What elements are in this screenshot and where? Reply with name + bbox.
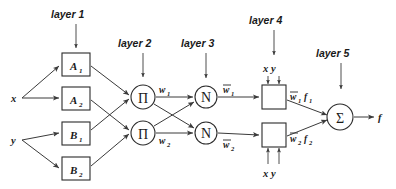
diagram-canvas: A 1 A 2 B 1 B 2 Π <box>0 0 396 189</box>
layer2-node-product-1[interactable]: Π <box>131 85 155 109</box>
layer-pointer-arrows <box>76 24 341 89</box>
normalized-weight-w1-base: w <box>223 85 230 95</box>
edge-cons1-to-sum <box>287 100 327 115</box>
input-y-label: y <box>9 135 16 146</box>
edge-y-to-B2 <box>22 140 59 168</box>
layer1-node-B1-subscript: 1 <box>79 136 83 144</box>
layer3-node-normalize-1[interactable]: N <box>195 86 217 108</box>
layer1-node-B2-subscript: 2 <box>78 171 83 179</box>
layer3-node-normalize-2[interactable]: N <box>195 122 217 144</box>
weight-w1-subscript: 1 <box>167 90 170 97</box>
weighted-output-1-extra-subscript: 1 <box>309 97 312 104</box>
layer-1-label: layer 1 <box>51 8 84 20</box>
layer4-node-consequent-1[interactable] <box>262 85 286 109</box>
layer1-node-B2-label: B <box>69 164 77 176</box>
layer-5-label: layer 5 <box>316 47 349 59</box>
layer3-to-layer4-edges <box>218 97 259 135</box>
weight-w2-base: w <box>159 136 166 146</box>
n-symbol-icon: N <box>201 126 211 141</box>
weighted-output-1-subscript: 1 <box>298 97 301 104</box>
pi-symbol-icon: Π <box>138 91 148 106</box>
layer4-bottom-xy-label: x y <box>262 168 276 179</box>
layer2-node-product-2[interactable]: Π <box>131 121 155 145</box>
weight-w1-base: w <box>159 85 166 95</box>
edge-labels-group: w 1 w 2 w 1 w 2 w <box>159 85 313 152</box>
layer-labels-group: layer 1 layer 2 layer 3 layer 4 layer 5 <box>51 8 349 59</box>
weighted-output-2-subscript: 2 <box>297 139 302 146</box>
pi-symbol-icon: Π <box>138 127 148 142</box>
layer4-nodes-group <box>262 85 286 147</box>
layer4-node-consequent-2[interactable] <box>262 123 286 147</box>
edge-label-normalized-weight-w2: w 2 <box>223 140 235 152</box>
weight-w2-subscript: 2 <box>166 141 171 148</box>
layer1-nodes-group: A 1 A 2 B 1 B 2 <box>62 53 90 180</box>
layer4-to-layer5-edges <box>287 100 327 136</box>
layer1-node-B1-label: B <box>69 129 77 141</box>
layer3-nodes-group: N N <box>195 86 217 144</box>
normalized-weight-w2-subscript: 2 <box>230 145 235 152</box>
weighted-output-1-base: w <box>290 92 297 102</box>
layer4-top-xy-label: x y <box>262 63 276 74</box>
layer1-node-A2[interactable]: A 2 <box>62 87 90 110</box>
layer1-to-layer2-edges <box>91 66 129 166</box>
edge-norm2-to-cons2 <box>218 133 259 135</box>
edge-label-weight-w1: w 1 <box>159 85 170 97</box>
anfis-diagram: A 1 A 2 B 1 B 2 Π <box>0 0 396 189</box>
edge-label-weighted-output-2: w 2 f 2 <box>290 133 313 146</box>
layer1-node-A1-subscript: 1 <box>79 67 83 75</box>
layer2-to-layer3-edges <box>154 97 194 133</box>
edge-A1-to-prod1 <box>91 66 129 95</box>
layer1-node-B1[interactable]: B 1 <box>62 122 90 145</box>
normalized-weight-w1-subscript: 1 <box>231 90 234 97</box>
edge-label-weight-w2: w 2 <box>159 136 171 148</box>
layer1-node-A2-subscript: 2 <box>78 101 83 109</box>
edge-B2-to-prod2 <box>91 134 129 166</box>
weighted-output-2-extra: f <box>304 134 308 144</box>
layer2-nodes-group: Π Π <box>131 85 155 145</box>
edge-x-to-A1 <box>22 66 59 98</box>
layer1-node-A1[interactable]: A 1 <box>62 53 90 76</box>
output-f-label: f <box>378 112 383 123</box>
layer1-node-A1-label: A <box>69 60 77 72</box>
normalized-weight-w2-base: w <box>223 140 230 150</box>
weighted-output-1-extra: f <box>304 92 308 102</box>
input-x-label: x <box>10 93 16 104</box>
weighted-output-2-extra-subscript: 2 <box>308 139 313 146</box>
sigma-symbol-icon: Σ <box>336 111 344 126</box>
layer1-node-B2[interactable]: B 2 <box>62 157 90 180</box>
edge-label-normalized-weight-w1: w 1 <box>223 85 234 97</box>
weighted-output-2-base: w <box>290 134 297 144</box>
edge-prod2-to-norm1 <box>154 102 194 126</box>
layer4-extra-input-labels: x y x y <box>262 63 276 179</box>
edge-y-to-B1 <box>22 133 59 140</box>
n-symbol-icon: N <box>201 90 211 105</box>
layer-4-label: layer 4 <box>249 14 282 26</box>
edge-prod1-to-norm2 <box>154 104 194 128</box>
layer1-node-A2-label: A <box>69 94 77 106</box>
input-edges <box>22 66 59 168</box>
layer5-node-sum[interactable]: Σ <box>327 104 353 130</box>
layer-3-label: layer 3 <box>181 37 214 49</box>
layer-2-label: layer 2 <box>118 37 151 49</box>
